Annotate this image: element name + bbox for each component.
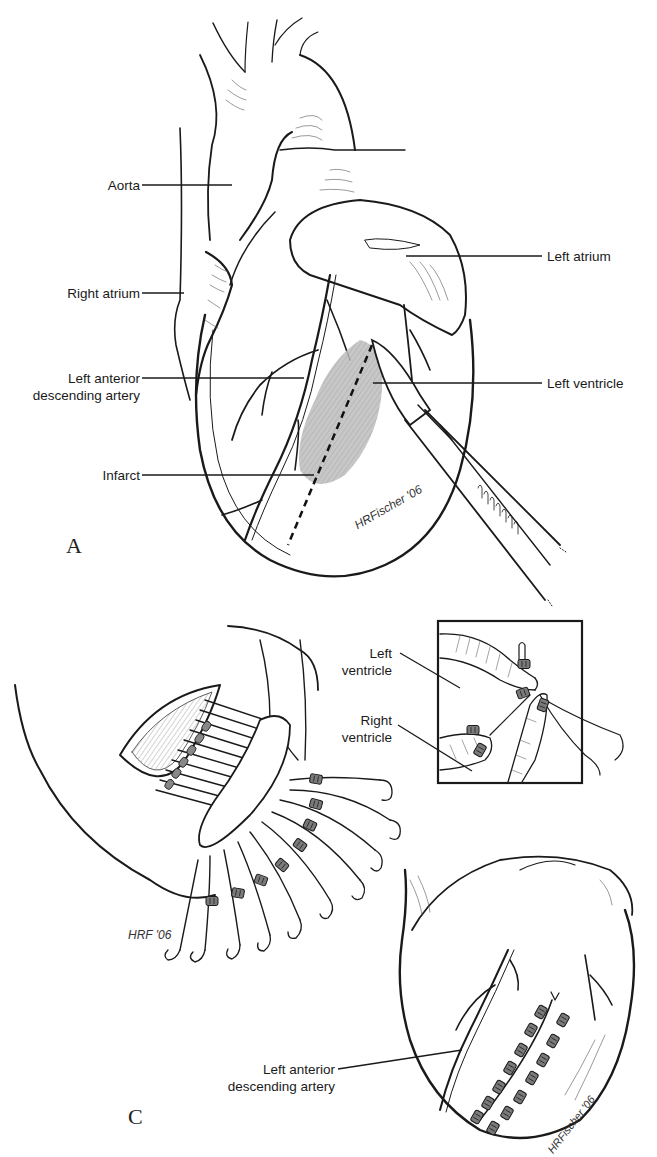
label-inset-left-ventricle-2: ventricle: [330, 662, 392, 679]
label-aorta: Aorta: [60, 177, 140, 194]
label-left-ventricle: Left ventricle: [547, 375, 624, 392]
label-right-atrium: Right atrium: [20, 285, 140, 302]
label-c-lad-line1: Left anterior: [200, 1061, 335, 1078]
inset-pledgets: [467, 660, 549, 758]
panel-label-a: A: [66, 533, 82, 559]
label-left-atrium: Left atrium: [547, 248, 611, 265]
label-inset-right-ventricle-2: ventricle: [330, 729, 392, 746]
label-c-lad-line2: descending artery: [200, 1078, 335, 1095]
inset-cross-section: [438, 621, 623, 783]
panel-c-pledgets: [470, 1005, 570, 1136]
panel-a-heart: [175, 18, 474, 576]
label-lad-line2: descending artery: [10, 387, 140, 404]
panel-c-leader-line: [338, 1050, 462, 1069]
label-lad-line1: Left anterior: [10, 370, 140, 387]
inset-leader-lines: [398, 653, 472, 771]
panel-label-c: C: [128, 1104, 143, 1130]
scalpel-icon: [372, 340, 566, 606]
signature-panel-b: HRF '06: [128, 928, 171, 942]
label-inset-left-ventricle-1: Left: [330, 645, 392, 662]
heart-surgery-illustration: [0, 0, 657, 1157]
label-inset-right-ventricle-1: Right: [330, 712, 392, 729]
label-infarct: Infarct: [60, 467, 140, 484]
